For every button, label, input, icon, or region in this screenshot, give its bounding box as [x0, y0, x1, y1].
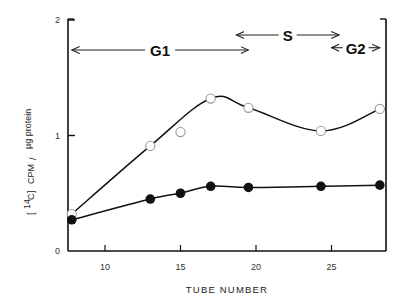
- y-tick-label: 1: [55, 131, 60, 141]
- filled-circle-marker: [206, 182, 216, 192]
- y-label-unit: µg protein: [23, 109, 33, 149]
- filled-circle-marker: [244, 183, 254, 193]
- y-tick-label: 2: [55, 15, 60, 25]
- filled-circle-marker: [375, 180, 385, 190]
- open-circle-marker: [206, 94, 215, 103]
- x-axis-label: TUBE NUMBER: [186, 284, 268, 295]
- open-circle-marker: [316, 126, 325, 135]
- series-line: [72, 96, 380, 214]
- phase-annotations: G1SG2: [72, 27, 380, 59]
- filled-circle-marker: [67, 215, 77, 225]
- phase-label-s: S: [283, 27, 293, 44]
- x-tick-label: 15: [175, 262, 185, 272]
- open-circle-marker: [244, 103, 253, 112]
- data-series: [67, 94, 385, 225]
- y-tick-label: 0: [55, 246, 60, 256]
- chart: 012 10152025 G1SG2 TUBE NUMBER [ 14 C ] …: [0, 0, 403, 308]
- y-label-bracket-close: ]: [26, 190, 36, 193]
- phase-label-g1: G1: [150, 42, 170, 59]
- filled-circle-marker: [176, 188, 186, 198]
- x-tick-label: 20: [251, 262, 261, 272]
- x-tick-label: 10: [100, 262, 110, 272]
- open-circle-marker: [176, 127, 185, 136]
- y-label-element: C: [26, 193, 36, 200]
- y-axis-label: [ 14 C ] CPM / µg protein: [22, 109, 38, 215]
- filled-circle-marker: [146, 194, 156, 204]
- open-circle-marker: [146, 141, 155, 150]
- axes: [68, 19, 386, 251]
- y-label-bracket-open: [: [26, 212, 36, 215]
- y-label-slash: /: [28, 157, 38, 160]
- x-axis-ticks: 10152025: [100, 245, 337, 272]
- phase-label-g2: G2: [346, 40, 366, 57]
- series-line: [72, 185, 380, 220]
- x-tick-label: 25: [326, 262, 336, 272]
- open-circle-marker: [375, 104, 384, 113]
- filled-circle-marker: [316, 182, 326, 192]
- y-label-cpm: CPM: [26, 164, 36, 184]
